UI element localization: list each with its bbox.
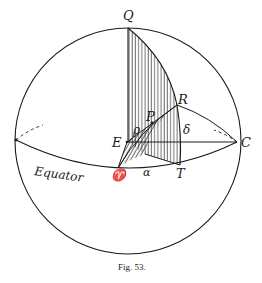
label-alpha: α: [143, 166, 151, 179]
equator-back-left-dashed: [16, 125, 43, 140]
label-equator: Equator: [33, 164, 86, 185]
point-E: [126, 141, 129, 144]
point-left-equator: [15, 139, 18, 142]
label-T: T: [176, 166, 186, 181]
label-R: R: [177, 92, 188, 107]
label-aries: ♈: [111, 168, 128, 182]
label-C: C: [241, 135, 251, 150]
label-E: E: [111, 135, 122, 150]
celestial-sphere-diagram: Q R P ρ δ E C T ♈ α Equator Fig. 53.: [0, 0, 262, 283]
label-delta: δ: [183, 123, 190, 137]
figure-caption: Fig. 53.: [118, 262, 146, 272]
label-rho: ρ: [132, 123, 140, 137]
label-P: P: [145, 109, 155, 124]
label-Q: Q: [123, 8, 134, 23]
